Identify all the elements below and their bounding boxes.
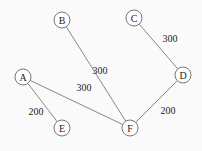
node-label: B [59,15,66,26]
node-E: E [54,120,70,136]
node-label: E [59,123,65,134]
edge-D-F: 200 [136,81,178,123]
graph-diagram: 300300300200200ABCDEF [0,0,202,151]
edge-C-D: 300 [139,24,178,69]
edge-line [139,24,178,69]
edge-weight-label: 300 [163,33,178,44]
node-label: A [19,72,27,83]
edge-B-F: 300 [66,27,125,121]
edge-weight-label: 200 [161,105,176,116]
node-D: D [175,67,191,83]
node-B: B [54,12,70,28]
edge-weight-label: 300 [93,65,108,76]
node-label: F [127,123,133,134]
graph-svg: 300300300200200ABCDEF [0,0,202,151]
node-label: D [179,70,186,81]
edge-weight-label: 200 [29,106,44,117]
node-F: F [122,120,138,136]
edge-A-F: 300 [30,80,123,124]
node-A: A [15,69,31,85]
node-label: C [131,13,138,24]
node-C: C [126,10,142,26]
edge-A-E: 200 [28,83,57,121]
edge-weight-label: 300 [77,82,92,93]
edge-line [136,81,178,123]
